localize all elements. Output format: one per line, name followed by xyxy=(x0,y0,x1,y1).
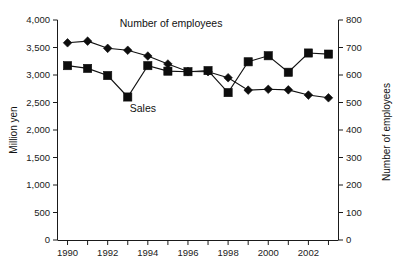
y2-tick-label: 600 xyxy=(346,69,362,80)
data-point-marker xyxy=(284,68,292,76)
series-annotation: Number of employees xyxy=(120,17,223,29)
y-tick-label: 2,000 xyxy=(26,124,50,135)
y-tick-label: 0 xyxy=(45,234,50,245)
y-tick-label: 1,500 xyxy=(26,152,50,163)
y-tick-label: 2,500 xyxy=(26,97,50,108)
x-tick-label: 2000 xyxy=(258,247,279,258)
y-tick-label: 1,000 xyxy=(26,179,50,190)
chart-background xyxy=(0,0,402,274)
y2-tick-label: 700 xyxy=(346,42,362,53)
x-tick-label: 1992 xyxy=(97,247,118,258)
y2-tick-label: 100 xyxy=(346,207,362,218)
data-point-marker xyxy=(324,50,332,58)
y2-tick-label: 800 xyxy=(346,14,362,25)
x-tick-label: 2002 xyxy=(298,247,319,258)
data-point-marker xyxy=(144,62,152,70)
x-tick-label: 1990 xyxy=(57,247,78,258)
y-axis-title: Million yen xyxy=(8,106,19,153)
data-point-marker xyxy=(244,58,252,66)
x-tick-label: 1996 xyxy=(177,247,198,258)
data-point-marker xyxy=(224,89,232,97)
y2-tick-label: 400 xyxy=(346,124,362,135)
y2-tick-label: 200 xyxy=(346,179,362,190)
x-tick-label: 1994 xyxy=(137,247,158,258)
y-tick-label: 500 xyxy=(34,207,50,218)
data-point-marker xyxy=(124,93,132,101)
data-point-marker xyxy=(63,62,71,70)
y2-axis-title: Number of employees xyxy=(381,83,392,181)
data-point-marker xyxy=(304,49,312,57)
data-point-marker xyxy=(84,64,92,72)
y2-tick-label: 500 xyxy=(346,97,362,108)
y2-tick-label: 0 xyxy=(346,234,351,245)
y-tick-label: 3,000 xyxy=(26,69,50,80)
chart-container: 05001,0001,5002,0002,5003,0003,5004,000 … xyxy=(0,0,402,274)
y2-tick-label: 300 xyxy=(346,152,362,163)
x-tick-label: 1998 xyxy=(218,247,239,258)
data-point-marker xyxy=(264,52,272,60)
y-tick-label: 3,500 xyxy=(26,42,50,53)
data-point-marker xyxy=(104,71,112,79)
dual-axis-line-chart: 05001,0001,5002,0002,5003,0003,5004,000 … xyxy=(0,0,402,274)
y-tick-label: 4,000 xyxy=(26,14,50,25)
series-annotation: Sales xyxy=(130,102,156,114)
